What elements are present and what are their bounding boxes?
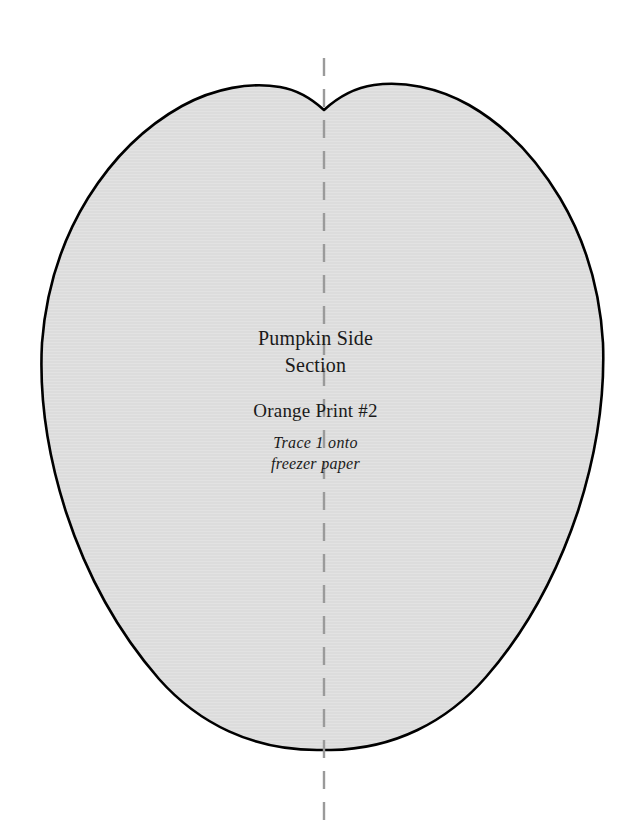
piece-title-line-1: Pumpkin Side [0, 325, 631, 352]
instruction-line-1: Trace 1 onto [0, 432, 631, 453]
instruction-line-2: freezer paper [0, 453, 631, 474]
pattern-sheet: Pumpkin Side Section Orange Print #2 Tra… [0, 0, 631, 832]
fabric-label: Orange Print #2 [0, 399, 631, 423]
piece-title-label: Pumpkin Side Section [0, 325, 631, 379]
instruction-label: Trace 1 onto freezer paper [0, 432, 631, 474]
piece-title-line-2: Section [0, 352, 631, 379]
